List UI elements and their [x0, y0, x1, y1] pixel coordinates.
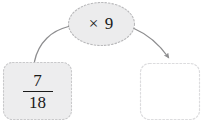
diagram-graphics: [0, 0, 205, 124]
input-fraction-box: [4, 63, 72, 120]
left-curve-connector: [35, 27, 69, 62]
diagram-canvas: × 9 7 18: [0, 0, 205, 124]
operator-ellipse: [69, 3, 135, 46]
output-answer-box[interactable]: [141, 64, 200, 120]
right-arrow-connector: [134, 29, 169, 58]
